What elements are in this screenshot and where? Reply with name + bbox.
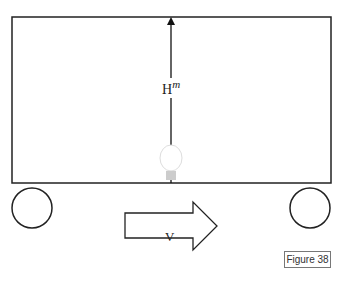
- height-arrow-head-icon: [167, 17, 175, 25]
- left-wheel: [12, 188, 52, 228]
- figure-caption: Figure 38: [284, 251, 331, 268]
- velocity-label: V: [165, 229, 174, 245]
- right-wheel: [290, 188, 330, 228]
- height-label: Hm: [160, 78, 182, 98]
- light-bulb-icon: [160, 145, 182, 180]
